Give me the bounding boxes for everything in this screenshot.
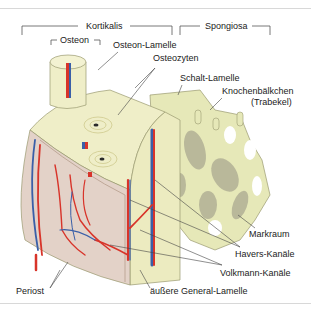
- label-spongiosa: Spongiosa: [205, 21, 248, 31]
- label-trabekel: (Trabekel): [251, 97, 292, 107]
- label-osteozyten: Osteozyten: [153, 53, 199, 63]
- label-osteon-lamelle: Osteon-Lamelle: [113, 40, 177, 50]
- label-osteon: Osteon: [60, 35, 89, 45]
- label-markraum: Markraum: [249, 229, 290, 239]
- label-knochenbaelkchen: Knochenbälkchen: [222, 86, 294, 96]
- label-havers-kanaele: Havers-Kanäle: [235, 249, 295, 259]
- label-aeussere-general-lamelle: äußere General-Lamelle: [150, 286, 248, 296]
- kortikalis-block: [21, 90, 180, 285]
- label-periost: Periost: [16, 286, 44, 296]
- osteon-cylinder: [50, 55, 86, 109]
- label-schalt-lamelle: Schalt-Lamelle: [180, 73, 240, 83]
- label-volkmann-kanaele: Volkmann-Kanäle: [220, 268, 291, 278]
- label-kortikalis: Kortikalis: [86, 21, 123, 31]
